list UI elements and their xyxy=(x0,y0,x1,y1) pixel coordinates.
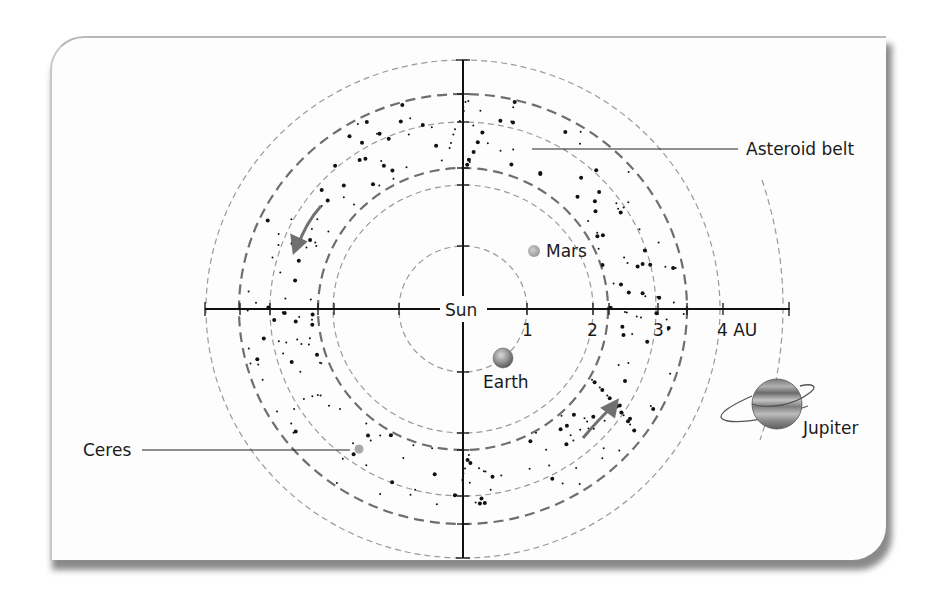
mars-label: Mars xyxy=(546,241,587,261)
earth-icon xyxy=(493,348,513,368)
ceres: Ceres xyxy=(83,440,364,460)
earth: Earth xyxy=(483,348,529,392)
earth-label: Earth xyxy=(483,372,529,392)
jupiter-label: Jupiter xyxy=(802,418,858,438)
tick-label-4: 4 AU xyxy=(717,320,757,340)
mars-icon xyxy=(528,245,540,257)
asteroid-belt-label: Asteroid belt xyxy=(746,139,855,159)
asteroid-belt-callout: Asteroid belt xyxy=(532,139,855,159)
solar-system-diagram: Sun 1 2 3 4 AU Earth Mars Ceres Asteroid… xyxy=(0,0,937,612)
tick-label-2: 2 xyxy=(587,320,598,340)
ceres-label: Ceres xyxy=(83,440,131,460)
ceres-icon xyxy=(355,445,364,454)
jupiter: Jupiter xyxy=(721,379,858,438)
jupiter-icon xyxy=(752,379,802,429)
tick-label-3: 3 xyxy=(653,320,664,340)
arrow-head-icon xyxy=(292,236,305,252)
mars: Mars xyxy=(528,241,587,261)
tick-label-1: 1 xyxy=(522,320,533,340)
axes xyxy=(205,60,790,558)
sun-label: Sun xyxy=(445,300,477,320)
